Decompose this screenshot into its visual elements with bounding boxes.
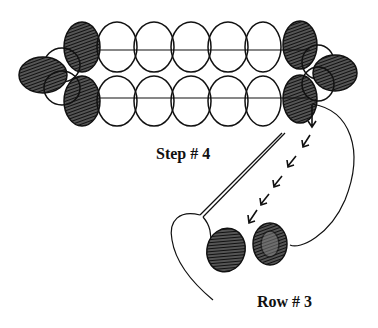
row3-beads bbox=[202, 223, 287, 276]
row-label: Row # 3 bbox=[257, 293, 312, 311]
beading-diagram bbox=[0, 0, 378, 328]
top-row-beads bbox=[64, 21, 317, 72]
arrow-icons bbox=[248, 105, 316, 223]
step-label: Step # 4 bbox=[156, 145, 210, 163]
bottom-row-beads bbox=[64, 75, 317, 126]
